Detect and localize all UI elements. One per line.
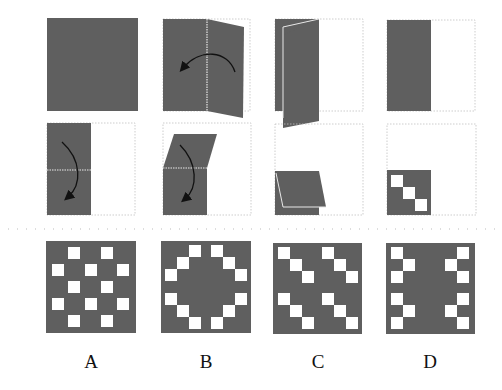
option-b-pattern[interactable]	[161, 241, 251, 333]
step-3-folding	[275, 19, 363, 128]
step-4-left-half	[387, 20, 475, 111]
option-c-label: C	[288, 351, 348, 373]
option-c-pattern[interactable]	[273, 243, 362, 334]
step-7-quarter-folding	[275, 124, 363, 215]
option-a-pattern[interactable]	[46, 241, 136, 333]
step-5-fold-down	[47, 123, 135, 215]
option-a-label: A	[61, 351, 121, 373]
option-d-label: D	[400, 351, 460, 373]
step-2-fold-left	[163, 19, 250, 118]
step-8-punched-quarter	[387, 124, 476, 215]
option-b-label: B	[176, 351, 236, 373]
paper-folding-puzzle: A B C D	[0, 0, 502, 390]
option-d-pattern[interactable]	[386, 243, 475, 334]
step-6-folding-down	[163, 123, 251, 215]
step-1-full-square	[47, 18, 138, 111]
